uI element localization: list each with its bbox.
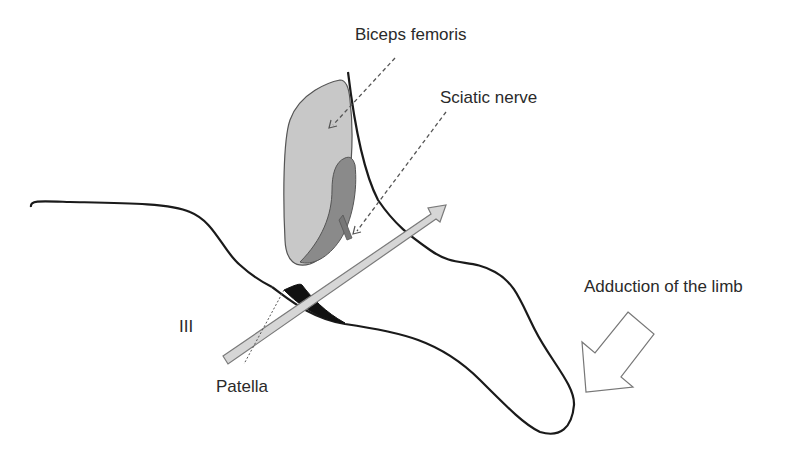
label-patella: Patella: [216, 378, 268, 395]
label-sciatic-nerve: Sciatic nerve: [440, 89, 537, 106]
label-biceps-femoris: Biceps femoris: [355, 26, 466, 43]
label-approach-iii: III: [179, 318, 193, 335]
anatomy-diagram: [0, 0, 803, 458]
adduction-arrow: [582, 312, 654, 392]
limb-outline-upper: [31, 201, 272, 287]
label-adduction-of-limb: Adduction of the limb: [584, 278, 743, 295]
